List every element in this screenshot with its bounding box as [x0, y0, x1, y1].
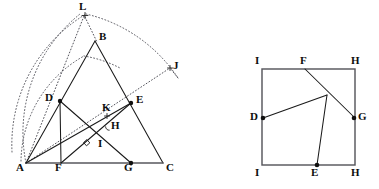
marker-dot-D [58, 99, 62, 103]
segment-F-to-G [305, 69, 355, 118]
arc-large-centred-A-through-L [23, 14, 80, 163]
square-corner-label-H-bottom: H [351, 167, 360, 178]
marker-cross-L [82, 13, 88, 19]
left-panel-group [12, 13, 178, 166]
point-label-H: H [111, 120, 120, 131]
cevian-D-G [60, 101, 131, 163]
point-label-G: G [124, 162, 133, 173]
point-label-J: J [173, 60, 179, 71]
square-point-label-G: G [358, 111, 367, 122]
square-point-label-F: F [300, 55, 307, 66]
arc-outer-right-to-J [86, 14, 178, 78]
point-label-E: E [136, 94, 143, 105]
angle-arc-mark-at-H [106, 126, 110, 130]
segment-A-E [26, 103, 131, 163]
square-solid-lines [263, 69, 355, 165]
left-point-markers [58, 13, 173, 166]
square-corner-label-I-bottom: I [255, 167, 259, 178]
square-point-label-E: E [311, 167, 318, 178]
marker-dot-E [129, 101, 133, 105]
point-label-I: I [98, 138, 102, 149]
square-corner-label-I-top: I [255, 55, 259, 66]
point-label-L: L [79, 1, 86, 12]
point-label-D: D [45, 92, 53, 103]
point-label-B: B [99, 31, 106, 42]
arc-small-lower-tail [84, 56, 120, 68]
angle-markers-group [84, 126, 110, 145]
point-label-K: K [102, 102, 111, 113]
square-corner-label-H-top: H [351, 55, 360, 66]
square-outline [262, 69, 355, 165]
marker-dot-G-right [352, 116, 357, 121]
marker-dot-D-right [261, 116, 266, 121]
right-point-markers [261, 116, 357, 168]
point-label-A: A [16, 162, 24, 173]
segment-E-to-junction [317, 95, 327, 165]
geometry-figure: A B C D E F G H I K L J I H I H F D G E [0, 0, 379, 189]
point-label-C: C [166, 162, 174, 173]
point-label-F: F [55, 162, 62, 173]
dotted-arcs-group [12, 14, 178, 163]
segment-D-F [60, 101, 61, 163]
square-point-label-D: D [250, 111, 258, 122]
segment-D-to-junction [263, 95, 327, 118]
right-panel-group [261, 69, 357, 167]
ray-L-to-B [85, 17, 97, 42]
